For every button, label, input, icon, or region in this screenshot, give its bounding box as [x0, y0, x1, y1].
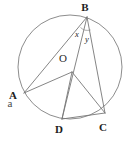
circle-outline: [18, 15, 122, 119]
segment-b-c: [87, 17, 105, 113]
angle-label-x: x: [74, 29, 79, 39]
point-label-c: C: [99, 121, 107, 133]
annotation-item-letter: a: [8, 97, 13, 109]
circle-geometry-diagram: B A D C O x y a: [0, 0, 135, 142]
segment-o-d: [62, 72, 72, 119]
point-label-d: D: [55, 123, 63, 135]
point-label-b: B: [81, 1, 89, 13]
geometry-figure: B A D C O x y a: [0, 0, 135, 142]
angle-label-y: y: [84, 34, 89, 44]
center-label-o: O: [59, 52, 67, 64]
segment-o-c: [72, 72, 105, 113]
segment-d-c: [62, 113, 105, 119]
segment-o-a: [24, 72, 72, 93]
